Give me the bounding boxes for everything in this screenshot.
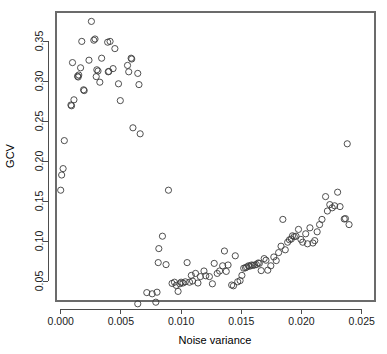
data-point: [195, 280, 201, 286]
data-point: [223, 268, 229, 274]
y-axis-title: GCV: [4, 143, 16, 168]
data-point: [280, 216, 286, 222]
data-point: [276, 250, 282, 256]
y-tick-label: 0.05: [33, 271, 45, 292]
data-point: [69, 60, 75, 66]
y-axis: 0.050.100.150.200.250.300.35: [33, 31, 48, 292]
data-point: [135, 70, 141, 76]
x-tick-label: 0.025: [349, 315, 375, 327]
data-point: [184, 260, 190, 266]
y-tick-label: 0.15: [33, 191, 45, 212]
data-point: [112, 46, 118, 52]
data-point: [97, 79, 103, 85]
data-point: [156, 246, 162, 252]
scatter-plot-figure: 0.0000.0050.0100.0150.0200.025 0.050.100…: [0, 0, 387, 354]
data-point: [314, 229, 320, 235]
y-tick-label: 0.35: [33, 31, 45, 52]
y-tick-label: 0.20: [33, 151, 45, 172]
data-points-layer: [58, 18, 353, 307]
data-point: [209, 281, 215, 287]
x-tick-label: 0.015: [228, 315, 254, 327]
data-point: [130, 125, 136, 131]
y-tick-label: 0.10: [33, 231, 45, 252]
x-tick-label: 0.005: [108, 315, 134, 327]
data-point: [263, 257, 269, 263]
data-point: [319, 216, 325, 222]
data-point: [278, 243, 284, 249]
x-axis: 0.0000.0050.0100.0150.0200.025: [48, 309, 375, 327]
data-point: [136, 82, 142, 88]
data-point: [77, 65, 83, 71]
data-point: [58, 187, 64, 193]
x-axis-title: Noise variance: [179, 334, 252, 346]
y-tick-label: 0.30: [33, 71, 45, 92]
data-point: [211, 260, 217, 266]
data-point: [344, 141, 350, 147]
data-point: [175, 288, 181, 294]
data-point: [265, 267, 271, 273]
data-point: [60, 166, 66, 172]
plot-frame: [56, 12, 375, 301]
data-point: [258, 268, 264, 274]
data-point: [261, 256, 267, 262]
data-point: [346, 222, 352, 228]
data-point: [115, 81, 121, 87]
data-point: [153, 299, 159, 305]
data-point: [322, 194, 328, 200]
data-point: [159, 233, 165, 239]
data-point: [268, 263, 274, 269]
data-point: [232, 253, 238, 259]
data-point: [163, 262, 169, 268]
data-point: [117, 98, 123, 104]
data-point: [79, 38, 85, 44]
data-point: [92, 36, 98, 42]
data-point: [282, 247, 288, 253]
data-point: [137, 131, 143, 137]
data-point: [295, 226, 301, 232]
x-tick-label: 0.000: [48, 315, 74, 327]
data-point: [88, 18, 94, 24]
data-point: [165, 187, 171, 193]
data-point: [303, 231, 309, 237]
data-point: [221, 248, 227, 254]
data-point: [59, 172, 65, 178]
data-point: [126, 69, 132, 75]
data-point: [71, 97, 77, 103]
data-point: [206, 274, 212, 280]
x-tick-label: 0.010: [168, 315, 194, 327]
data-point: [99, 55, 105, 61]
data-point: [86, 57, 92, 63]
x-tick-label: 0.020: [288, 315, 314, 327]
data-point: [307, 225, 313, 231]
data-point: [135, 301, 141, 307]
data-point: [335, 189, 341, 195]
data-point: [124, 62, 130, 68]
data-point: [61, 138, 67, 144]
data-point: [95, 68, 101, 74]
chart-canvas: 0.0000.0050.0100.0150.0200.025 0.050.100…: [0, 0, 387, 354]
y-tick-label: 0.25: [33, 111, 45, 132]
data-point: [155, 260, 161, 266]
